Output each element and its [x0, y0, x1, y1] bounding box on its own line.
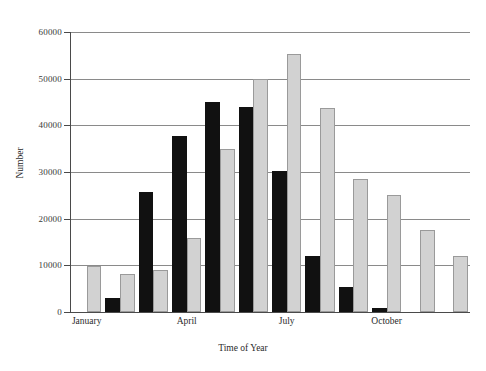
plot-area — [70, 32, 470, 312]
bar-black — [272, 171, 287, 312]
y-axis-tick-labels: 0100002000030000400005000060000 — [0, 32, 62, 312]
bar-black — [205, 102, 220, 312]
x-tick-label: July — [279, 316, 295, 326]
bar-gray — [120, 274, 135, 312]
bar-gray — [453, 256, 468, 312]
y-tick-label: 20000 — [39, 214, 63, 224]
bar-black — [105, 298, 120, 312]
y-tick-label: 50000 — [39, 74, 63, 84]
bar-gray — [220, 149, 235, 312]
bar-gray — [253, 79, 268, 312]
x-tick-label: October — [371, 316, 402, 326]
bar-gray — [420, 230, 435, 312]
bar-black — [139, 192, 154, 312]
y-axis-title: Number — [15, 103, 25, 223]
y-tick-label: 10000 — [39, 260, 63, 270]
bar-gray — [153, 270, 168, 312]
bar-gray — [320, 108, 335, 312]
bar-black — [239, 107, 254, 312]
bar-black — [172, 136, 187, 312]
x-tick-label: January — [72, 316, 102, 326]
y-tick-label: 60000 — [39, 27, 63, 37]
bar-gray — [187, 238, 202, 312]
bar-black — [339, 287, 354, 312]
bars-layer — [70, 32, 470, 312]
x-axis-line — [70, 312, 470, 313]
bar-gray — [87, 266, 102, 312]
bar-gray — [353, 179, 368, 312]
y-tick-label: 30000 — [39, 167, 63, 177]
bar-black — [305, 256, 320, 312]
bar-gray — [387, 195, 402, 312]
x-axis-category-labels: JanuaryAprilJulyOctober — [70, 316, 470, 332]
y-tick-label: 40000 — [39, 120, 63, 130]
y-tick-label: 0 — [57, 307, 62, 317]
bar-black — [372, 308, 387, 312]
x-tick-label: April — [177, 316, 197, 326]
bar-gray — [287, 54, 302, 312]
x-axis-title: Time of Year — [0, 343, 486, 353]
bar-chart: 0100002000030000400005000060000 Number J… — [0, 0, 486, 371]
